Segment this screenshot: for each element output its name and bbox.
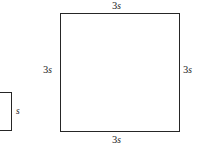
large-square-side-label-top: 3s (112, 1, 121, 12)
small-square-side-label-right: s (16, 106, 20, 117)
large-square-side-label-left-variable: s (48, 65, 52, 75)
large-square-side-label-bottom-variable: s (117, 135, 121, 145)
large-square-side-label-right: 3s (183, 65, 192, 76)
small-square-side-label-right-variable: s (16, 106, 20, 116)
large-square-side-label-left: 3s (43, 65, 52, 76)
geometry-figure: s 3s 3s 3s 3s (0, 0, 197, 156)
large-square-side-label-right-variable: s (188, 65, 192, 75)
small-square-shape (0, 92, 12, 131)
large-square-shape (60, 13, 180, 132)
large-square-side-label-bottom: 3s (112, 135, 121, 146)
large-square-side-label-top-variable: s (117, 1, 121, 11)
